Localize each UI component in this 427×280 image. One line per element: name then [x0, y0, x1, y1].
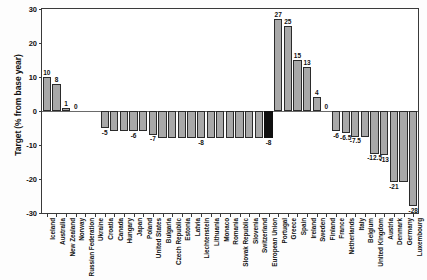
x-axis-label: Latvia [194, 218, 201, 236]
bar-chart: Target (% from base year) 3020100-10-20-… [0, 0, 427, 280]
x-axis-label: Luxembourg [416, 218, 423, 256]
y-tick-label: 20 [4, 39, 37, 48]
x-axis-label: Norway [78, 218, 85, 241]
x-axis-label: Australia [59, 218, 66, 245]
bar-value-label: -8 [266, 139, 272, 146]
x-tick-mark [317, 214, 318, 217]
x-tick-mark [211, 214, 212, 217]
x-tick-mark [249, 214, 250, 217]
bar [216, 111, 224, 138]
x-tick-mark [191, 214, 192, 217]
plot-inner: 3020100-10-20-3010810-5-6-7-8-8272515134… [42, 9, 418, 213]
x-tick-mark [95, 214, 96, 217]
x-axis-label: France [338, 218, 345, 239]
x-tick-mark [153, 214, 154, 217]
x-axis-label: Greece [290, 218, 297, 239]
bar-value-label: -6 [333, 132, 339, 139]
x-axis-label: Sweden [319, 218, 326, 242]
x-axis-label: Spain [300, 218, 307, 235]
x-axis-label: Czech Republic [175, 218, 182, 265]
x-axis-label: Iceland [49, 218, 56, 240]
x-axis-label: Japan [136, 218, 143, 236]
bar [43, 77, 51, 111]
bar [197, 111, 205, 138]
bar [101, 111, 109, 128]
x-tick-mark [326, 214, 327, 217]
x-tick-mark [182, 214, 183, 217]
y-tick-mark [39, 43, 42, 44]
bar-value-label: 10 [43, 69, 50, 76]
bar-value-label: 25 [284, 18, 291, 25]
x-axis-label: Denmark [396, 218, 403, 245]
x-axis-label: Ireland [310, 218, 317, 239]
bar [235, 111, 243, 138]
x-tick-mark [76, 214, 77, 217]
x-tick-mark [143, 214, 144, 217]
x-tick-mark [394, 214, 395, 217]
bar [361, 111, 369, 137]
x-axis-label: Italy [358, 218, 365, 231]
bar-value-label: -5 [102, 129, 108, 136]
bar-value-label: 27 [275, 11, 282, 18]
x-tick-mark [47, 214, 48, 217]
x-axis-label: Portugal [281, 218, 288, 244]
x-axis-label: United Kingdom [377, 218, 384, 267]
bar [72, 111, 80, 112]
bar-value-label: -7.5 [350, 137, 361, 144]
bar [62, 108, 70, 111]
x-axis-label: Canada [117, 218, 124, 241]
x-tick-mark [85, 214, 86, 217]
x-tick-mark [404, 214, 405, 217]
x-tick-mark [240, 214, 241, 217]
x-tick-mark [220, 214, 221, 217]
x-tick-mark [297, 214, 298, 217]
bar [139, 111, 147, 131]
y-tick-mark [39, 179, 42, 180]
bar [110, 111, 118, 131]
bar [226, 111, 234, 138]
x-tick-mark [163, 214, 164, 217]
x-axis-label: Bulgaria [165, 218, 172, 243]
bar [274, 19, 282, 111]
x-tick-mark [66, 214, 67, 217]
bar-value-label: -13 [380, 156, 389, 163]
bar-value-label: -28 [408, 207, 417, 214]
bar-value-label: 1 [64, 100, 68, 107]
x-tick-mark [114, 214, 115, 217]
bar-value-label: -6 [131, 132, 137, 139]
x-axis-label: Slovak Republic [242, 218, 249, 267]
x-axis-label: Switzerland [261, 218, 268, 253]
x-axis-label: Russian Federation [88, 218, 95, 276]
x-tick-mark [278, 214, 279, 217]
bar [370, 111, 378, 154]
x-axis-label: Croatia [107, 218, 114, 240]
x-axis-label: Finland [329, 218, 336, 240]
y-tick-label: -30 [4, 209, 37, 218]
bar-value-label: -7 [150, 135, 156, 142]
x-axis-label: Estonia [184, 218, 191, 241]
bar [149, 111, 157, 135]
x-tick-mark [56, 214, 57, 217]
bar-value-label: -8 [198, 139, 204, 146]
x-axis-label: United States [155, 218, 162, 258]
bar-value-label: 8 [55, 76, 59, 83]
bar [207, 111, 215, 138]
x-axis-label: Hungary [126, 218, 133, 244]
bar [91, 111, 99, 112]
y-tick-label: -10 [4, 141, 37, 150]
bar [245, 111, 253, 138]
bar [380, 111, 388, 155]
x-tick-mark [346, 214, 347, 217]
x-axis-label: Slovenia [252, 218, 259, 244]
x-axis-label: Poland [146, 218, 153, 239]
bar [187, 111, 195, 138]
bar [120, 111, 128, 131]
x-axis-label: Netherlands [348, 218, 355, 254]
bar [129, 111, 137, 131]
bar [351, 111, 359, 137]
x-tick-mark [134, 214, 135, 217]
x-tick-mark [105, 214, 106, 217]
x-axis-label: New Zealand [69, 218, 76, 257]
x-tick-mark [375, 214, 376, 217]
bar-value-label: 0 [74, 103, 78, 110]
